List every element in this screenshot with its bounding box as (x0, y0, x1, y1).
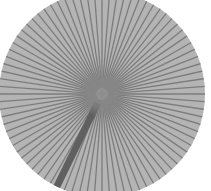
radial-burst-figure (0, 0, 211, 191)
radial-burst-disc (0, 0, 211, 191)
center-glow (78, 70, 126, 118)
